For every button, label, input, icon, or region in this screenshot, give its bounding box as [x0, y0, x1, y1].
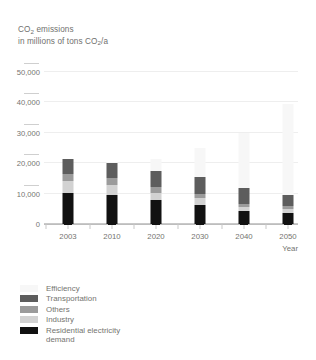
chart-title-line1-subscript: 2 [30, 28, 34, 35]
y-tick-label-30000: 30,000 [0, 128, 40, 137]
bar-2010 [107, 162, 118, 224]
y-tick-dash-40000 [24, 93, 39, 94]
legend-swatch-icon [20, 285, 38, 292]
x-tick-label-2010: 2010 [103, 232, 120, 241]
bar-segment-2020-transportation [151, 171, 162, 187]
gridline-30000 [44, 132, 298, 133]
legend-item-label: Transportation [46, 294, 97, 303]
x-axis-title: Year [282, 244, 298, 253]
bar-segment-2020-efficiency [151, 159, 162, 171]
gridline-20000 [44, 162, 298, 163]
bar-segment-2030-efficiency [195, 148, 206, 177]
bar-segment-2030-industry [195, 198, 206, 205]
y-tick-label-10000: 10,000 [0, 189, 40, 198]
x-marker-2020 [152, 218, 160, 225]
x-tick-label-2050: 2050 [279, 232, 296, 241]
legend-item[interactable]: Industry [20, 315, 280, 324]
bar-2050 [283, 104, 294, 224]
chart-title-line1-rest: emissions [34, 25, 74, 34]
legend-item[interactable]: Efficiency [20, 284, 280, 293]
x-marker-2040 [240, 218, 248, 225]
gridline-10000 [44, 193, 298, 194]
legend-item[interactable]: Others [20, 305, 280, 314]
chart-title-line2-subscript: 2 [98, 39, 102, 46]
gridline-50000 [44, 71, 298, 72]
legend-item-label: Efficiency [46, 284, 80, 293]
legend-item-label: Others [46, 305, 70, 314]
bar-2020 [151, 159, 162, 224]
legend-item[interactable]: Transportation [20, 294, 280, 303]
chart-title-line2-rest: /a [101, 37, 108, 46]
y-tick-dash-20000 [24, 154, 39, 155]
legend-item-label: Residential electricity demand [46, 326, 120, 344]
y-axis: 010,00020,00030,00040,00050,000 [0, 72, 40, 224]
x-axis-line [44, 224, 298, 225]
x-minor-tick-6 [178, 224, 179, 229]
x-tick-label-2020: 2020 [147, 232, 164, 241]
y-tick-label-50000: 50,000 [0, 68, 40, 77]
y-tick-dash-50000 [24, 63, 39, 64]
bar-segment-2040-transportation [239, 188, 250, 204]
legend-swatch-icon [20, 316, 38, 323]
x-minor-tick-0 [46, 224, 47, 229]
bar-segment-2040-efficiency [239, 133, 250, 188]
y-tick-label-0: 0 [0, 220, 40, 229]
legend-swatch-icon [20, 295, 38, 302]
x-minor-tick-8 [222, 224, 223, 229]
x-minor-tick-10 [266, 224, 267, 229]
gridline-40000 [44, 101, 298, 102]
bar-segment-2003-industry [63, 181, 74, 193]
chart-legend: EfficiencyTransportationOthersIndustryRe… [20, 284, 280, 345]
co2-emissions-stacked-bar-chart: CO2 emissions in millions of tons CO2/a … [0, 0, 316, 360]
bar-segment-2030-transportation [195, 177, 206, 194]
bar-2003 [63, 159, 74, 224]
bar-segment-2050-efficiency [283, 104, 294, 195]
legend-item-label: Industry [46, 315, 74, 324]
x-marker-2003 [64, 218, 72, 225]
y-tick-dash-10000 [24, 185, 39, 186]
x-tick-label-2003: 2003 [59, 232, 76, 241]
x-marker-2010 [108, 218, 116, 225]
bar-segment-2010-transportation [107, 163, 118, 177]
y-tick-dash-30000 [24, 124, 39, 125]
y-tick-label-40000: 40,000 [0, 98, 40, 107]
legend-swatch-icon [20, 306, 38, 313]
bar-2040 [239, 133, 250, 224]
chart-title: CO2 emissions in millions of tons CO2/a [18, 24, 108, 47]
bar-segment-2010-others [107, 178, 118, 185]
legend-item[interactable]: Residential electricity demand [20, 326, 280, 344]
x-marker-2050 [284, 218, 292, 225]
legend-swatch-icon [20, 327, 38, 334]
x-marker-2030 [196, 218, 204, 225]
chart-title-line2-prefix: in millions of tons CO [18, 37, 98, 46]
plot-area [44, 72, 298, 224]
chart-title-line1-prefix: CO [18, 25, 30, 34]
bar-segment-2050-transportation [283, 195, 294, 206]
y-tick-label-20000: 20,000 [0, 159, 40, 168]
bar-segment-2020-industry [151, 193, 162, 200]
x-tick-label-2030: 2030 [191, 232, 208, 241]
x-minor-tick-2 [90, 224, 91, 229]
bar-segment-2003-transportation [63, 159, 74, 174]
x-tick-label-2040: 2040 [235, 232, 252, 241]
bar-segment-2003-others [63, 174, 74, 182]
x-minor-tick-4 [134, 224, 135, 229]
bar-segment-2010-industry [107, 185, 118, 196]
bar-2030 [195, 148, 206, 224]
